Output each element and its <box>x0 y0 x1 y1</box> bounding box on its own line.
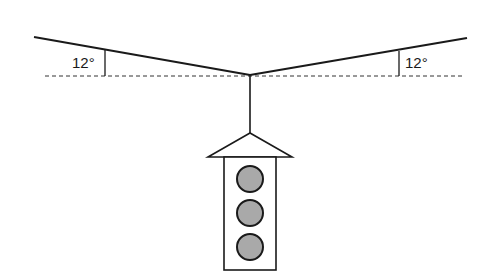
left-angle-label: 12° <box>72 55 95 70</box>
right-cable <box>250 38 467 75</box>
left-cable <box>34 37 250 75</box>
lamp-middle <box>237 200 263 226</box>
traffic-light-roof <box>208 133 292 157</box>
right-angle-label: 12° <box>405 55 428 70</box>
diagram-canvas <box>0 0 492 279</box>
lamp-top <box>237 166 263 192</box>
lamp-bottom <box>237 234 263 260</box>
